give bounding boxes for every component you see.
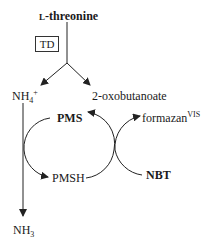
left-cycle-arc xyxy=(24,118,50,177)
branch-arrow-nh4 xyxy=(41,63,67,85)
enzyme-td-box: TD xyxy=(35,36,59,52)
pmsh-label: PMSH xyxy=(52,172,85,184)
nh3-label: NH3 xyxy=(13,224,34,236)
formazan-label: formazanVIS xyxy=(142,112,200,124)
pms-label: PMS xyxy=(57,112,82,124)
pmsh-to-center-arc xyxy=(86,112,115,178)
nbt-to-formazan-arc xyxy=(115,116,142,175)
branch-arrow-oxobutanoate xyxy=(67,63,90,85)
l-threonine-label: L-threonine xyxy=(39,10,98,22)
nh4-label: NH4+ xyxy=(12,90,38,102)
oxobutanoate-label: 2-oxobutanoate xyxy=(92,90,167,102)
nbt-label: NBT xyxy=(146,169,171,181)
